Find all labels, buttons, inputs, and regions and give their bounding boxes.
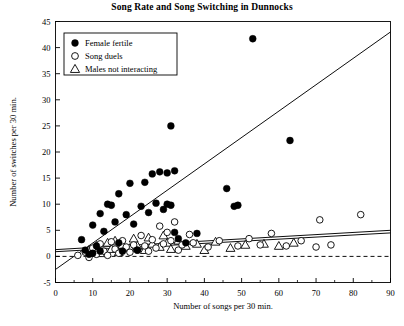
data-point-filled-circle bbox=[138, 203, 145, 210]
y-axis-ticks bbox=[56, 22, 61, 283]
y-tick-label: 35 bbox=[42, 69, 51, 79]
data-point-open-circle bbox=[171, 219, 178, 226]
data-point-filled-circle bbox=[123, 211, 130, 218]
chart-legend: Female fertileSong duelsMales not intera… bbox=[64, 33, 177, 75]
data-point-triangle bbox=[129, 234, 138, 242]
x-tick-label: 60 bbox=[275, 288, 284, 298]
data-point-filled-circle bbox=[145, 209, 152, 216]
data-point-filled-circle bbox=[115, 239, 122, 246]
data-point-filled-circle bbox=[167, 123, 174, 130]
data-point-triangle bbox=[226, 244, 235, 252]
data-point-filled-circle bbox=[171, 229, 178, 236]
data-point-open-circle bbox=[246, 235, 253, 242]
data-point-open-circle bbox=[268, 230, 275, 237]
data-point-filled-circle bbox=[175, 235, 182, 242]
x-tick-label: 30 bbox=[163, 288, 172, 298]
data-point-open-circle bbox=[168, 237, 175, 244]
x-tick-label: 50 bbox=[237, 288, 246, 298]
data-point-open-circle bbox=[72, 53, 79, 60]
data-point-open-circle bbox=[190, 240, 197, 247]
data-point-open-circle bbox=[156, 223, 163, 230]
data-point-filled-circle bbox=[287, 137, 294, 144]
data-point-filled-circle bbox=[119, 248, 126, 255]
data-point-filled-circle bbox=[115, 190, 122, 197]
data-point-open-circle bbox=[257, 242, 264, 249]
data-point-filled-circle bbox=[149, 171, 156, 178]
y-tick-label: 20 bbox=[42, 147, 51, 157]
data-point-filled-circle bbox=[134, 247, 141, 254]
data-point-open-circle bbox=[186, 231, 193, 238]
data-point-filled-circle bbox=[249, 35, 256, 42]
series-song-duels bbox=[75, 211, 364, 260]
legend-label: Female fertile bbox=[85, 38, 133, 48]
y-tick-label: -5 bbox=[43, 278, 50, 288]
data-point-open-circle bbox=[153, 245, 160, 252]
data-point-open-circle bbox=[108, 238, 115, 245]
data-point-filled-circle bbox=[156, 168, 163, 175]
data-point-open-circle bbox=[149, 236, 156, 243]
data-point-filled-circle bbox=[130, 221, 137, 228]
data-point-filled-circle bbox=[112, 219, 119, 226]
data-point-filled-circle bbox=[97, 210, 104, 217]
data-point-open-circle bbox=[357, 211, 364, 218]
y-tick-label: 25 bbox=[42, 121, 51, 131]
data-point-filled-circle bbox=[78, 236, 85, 243]
x-axis-tick-labels: 0102030405060708090 bbox=[53, 288, 394, 298]
data-point-open-circle bbox=[328, 242, 335, 249]
data-point-open-circle bbox=[127, 249, 134, 256]
data-point-open-circle bbox=[298, 237, 305, 244]
x-tick-label: 40 bbox=[200, 288, 209, 298]
data-point-filled-circle bbox=[164, 169, 171, 176]
y-tick-label: 0 bbox=[46, 251, 50, 261]
data-point-open-circle bbox=[235, 243, 242, 250]
x-tick-label: 90 bbox=[386, 288, 395, 298]
scatter-plot: 0102030405060708090 -5051015202530354045… bbox=[0, 0, 404, 326]
data-point-open-circle bbox=[160, 241, 167, 248]
legend-label: Males not interacting bbox=[85, 64, 158, 74]
data-point-filled-circle bbox=[223, 185, 230, 192]
data-point-open-circle bbox=[316, 217, 323, 224]
y-tick-label: 40 bbox=[42, 43, 51, 53]
y-tick-label: 30 bbox=[42, 95, 51, 105]
data-point-triangle bbox=[289, 238, 298, 246]
data-point-open-circle bbox=[138, 232, 145, 239]
x-tick-label: 80 bbox=[349, 288, 358, 298]
data-point-open-circle bbox=[216, 237, 223, 244]
y-axis-title: Number of switches per 30 min. bbox=[8, 97, 18, 207]
data-point-open-circle bbox=[313, 244, 320, 251]
x-tick-label: 10 bbox=[88, 288, 97, 298]
data-point-filled-circle bbox=[89, 222, 96, 229]
data-point-filled-circle bbox=[89, 250, 96, 257]
x-tick-label: 20 bbox=[126, 288, 135, 298]
y-axis-tick-labels: -5051015202530354045 bbox=[42, 17, 51, 288]
data-point-filled-circle bbox=[108, 202, 115, 209]
y-tick-label: 5 bbox=[46, 225, 50, 235]
data-point-filled-circle bbox=[97, 248, 104, 255]
data-point-open-circle bbox=[164, 229, 171, 236]
data-point-filled-circle bbox=[127, 180, 134, 187]
data-point-open-circle bbox=[75, 252, 82, 259]
data-point-filled-circle bbox=[171, 167, 178, 174]
y-tick-label: 10 bbox=[42, 199, 51, 209]
y-tick-label: 15 bbox=[42, 173, 51, 183]
data-point-filled-circle bbox=[153, 200, 160, 207]
data-point-filled-circle bbox=[167, 202, 174, 209]
x-tick-label: 0 bbox=[53, 288, 57, 298]
data-point-open-circle bbox=[205, 244, 212, 251]
data-point-triangle bbox=[274, 242, 283, 250]
y-tick-label: 45 bbox=[42, 17, 51, 27]
data-point-filled-circle bbox=[72, 40, 79, 47]
data-point-filled-circle bbox=[234, 202, 241, 209]
x-tick-label: 70 bbox=[312, 288, 321, 298]
data-point-open-circle bbox=[104, 252, 111, 259]
chart-figure: Song Rate and Song Switching in Dunnocks… bbox=[0, 0, 404, 326]
data-point-filled-circle bbox=[100, 228, 107, 235]
x-axis-title: Number of songs per 30 min. bbox=[173, 301, 273, 311]
data-point-filled-circle bbox=[141, 179, 148, 186]
data-point-open-circle bbox=[145, 248, 152, 255]
data-point-filled-circle bbox=[194, 230, 201, 237]
legend-label: Song duels bbox=[85, 51, 123, 61]
data-point-filled-circle bbox=[182, 239, 189, 246]
data-point-open-circle bbox=[283, 243, 290, 250]
